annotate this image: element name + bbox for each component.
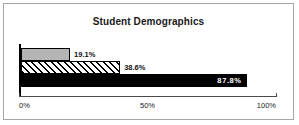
bar-value-label-2: 38.6% [120,61,145,74]
x-axis-tick [19,93,20,97]
bar-value-label-3: 87.8% [217,74,246,87]
x-axis-line [19,96,277,97]
bar-series-2[interactable] [21,61,120,74]
bar-series-1[interactable] [21,48,70,61]
x-axis-tick-label: 0% [19,101,30,110]
x-axis-tick-label: 100% [257,101,276,110]
plot-area: 19.1% 38.6% 87.8% [19,44,276,96]
x-axis: 0%50%100% [19,96,277,97]
x-axis-tick-label: 50% [140,101,155,110]
bar-series-3[interactable] [21,74,247,87]
chart-title: Student Demographics [4,16,293,27]
bar-value-label-1: 19.1% [70,48,95,61]
chart-frame: Student Demographics 19.1% 38.6% 87.8% 0… [3,3,294,120]
x-axis-tick [276,93,277,97]
